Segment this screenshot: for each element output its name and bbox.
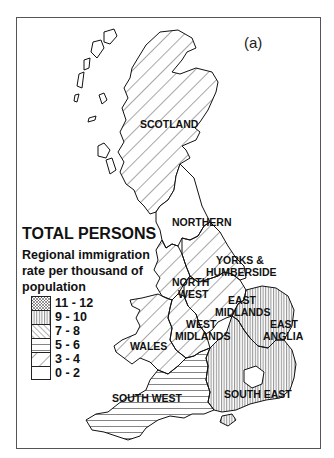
panel-letter: (a) [244,34,262,51]
legend-label-5-6: 5 - 6 [55,338,80,352]
label-yorks-line2: HUMBERSIDE [206,266,277,278]
label-northwest-line2: WEST [178,288,208,300]
legend-subtitle: Regional immigration rate per thousand o… [22,247,162,295]
legend-title: TOTAL PERSONS [22,225,156,243]
label-eastanglia-line1: EAST [270,318,298,330]
legend-subtitle-line: rate per thousand of [22,263,162,279]
label-wales: WALES [130,340,167,352]
label-scotland: SCOTLAND [140,118,198,130]
label-westmid-line1: WEST [186,318,216,330]
label-northwest-line1: NORTH [172,276,209,288]
label-eastmid-line1: EAST [228,294,256,306]
legend-subtitle-line: Regional immigration [22,247,162,263]
legend-label-11-12: 11 - 12 [55,296,93,310]
legend-subtitle-line: population [22,279,162,295]
label-southeast: SOUTH EAST [224,388,292,400]
legend-label-0-2: 0 - 2 [55,366,80,380]
label-eastmid-line2: MIDLANDS [215,306,270,318]
legend-swatches [31,296,51,380]
label-yorks-line1: YORKS & [216,254,264,266]
swatch-dense-diagonal [32,325,51,339]
legend-label-3-4: 3 - 4 [55,352,80,366]
swatch-wide-diagonal [32,353,51,367]
isle-of-wight [220,414,236,426]
swatch-vertical [32,311,51,325]
label-westmid-line2: MIDLANDS [175,330,230,342]
swatch-blank [32,367,51,380]
label-eastanglia-line2: ANGLIA [263,330,303,342]
label-southwest: SOUTH WEST [112,392,182,404]
london-outline [244,366,264,388]
swatch-horizontal [32,339,51,353]
swatch-crosshatch [32,297,51,311]
label-northern: NORTHERN [172,216,232,228]
legend-label-9-10: 9 - 10 [55,310,87,324]
scotland-islands [74,29,117,174]
legend-label-7-8: 7 - 8 [55,324,80,338]
